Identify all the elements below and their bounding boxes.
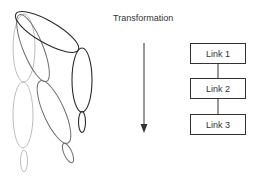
pose-dark xyxy=(10,4,92,132)
link-1-box: Link 1 xyxy=(190,43,246,64)
dark-middle-segment xyxy=(72,48,92,112)
link-1-label: Link 1 xyxy=(206,49,230,59)
link-2-box: Link 2 xyxy=(190,78,246,99)
light-middle-segment xyxy=(13,82,33,148)
pose-light xyxy=(13,14,35,172)
medium-lower-segment xyxy=(60,142,76,164)
light-lower-segment xyxy=(21,150,28,172)
dark-upper-segment xyxy=(10,4,83,59)
down-arrow-icon xyxy=(141,43,148,133)
link-3-box: Link 3 xyxy=(190,114,246,135)
pose-medium xyxy=(10,11,77,164)
link-2-label: Link 2 xyxy=(206,84,230,94)
dark-lower-segment xyxy=(79,112,86,133)
medium-middle-segment xyxy=(31,77,78,148)
transformation-label: Transformation xyxy=(113,13,173,23)
link-3-label: Link 3 xyxy=(206,120,230,130)
